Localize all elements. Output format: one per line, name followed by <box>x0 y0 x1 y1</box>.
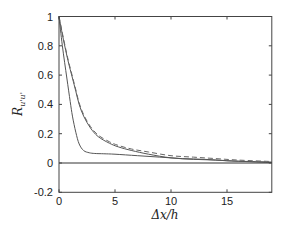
y-axis-label: Ru'u' <box>11 92 27 117</box>
y-tick-label: 0 <box>47 157 53 169</box>
x-tick-label: 5 <box>112 195 118 207</box>
line-chart: 051015-0.200.20.40.60.81 Δx/h Ru'u' <box>0 0 284 234</box>
y-tick-label: 0.8 <box>38 40 53 52</box>
svg-text:Ru'u': Ru'u' <box>11 92 27 117</box>
y-axis-label-sub: u'u' <box>18 92 27 107</box>
y-tick-label: 0.6 <box>38 69 53 81</box>
y-tick-label: 1 <box>47 11 53 23</box>
y-tick-label: 0.2 <box>38 128 53 140</box>
y-axis-label-main: R <box>11 107 25 117</box>
y-tick-label: -0.2 <box>34 186 53 198</box>
x-tick-label: 0 <box>56 195 62 207</box>
x-tick-label: 15 <box>221 195 233 207</box>
plot-area <box>59 17 272 193</box>
y-tick-label: 0.4 <box>38 98 53 110</box>
x-axis-label: Δx/h <box>150 208 178 222</box>
x-tick-label: 10 <box>165 195 177 207</box>
